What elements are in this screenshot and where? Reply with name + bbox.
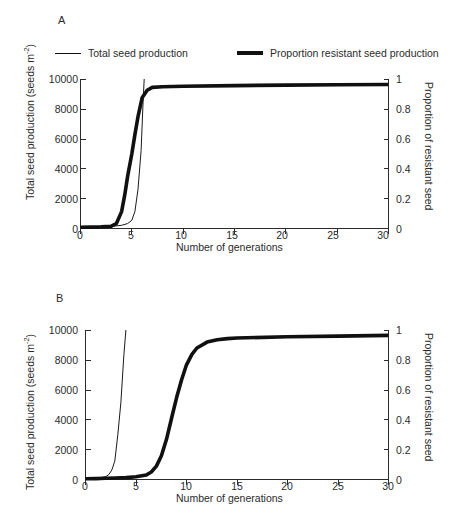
panel-b: B Total seed production (seeds m-2) Prop… (0, 278, 451, 523)
panel-a-series-proportion-resistant (81, 85, 389, 228)
panel-b-bottom-ticks (86, 480, 389, 485)
panel-b-left-ticks (86, 331, 91, 480)
panel-a-bottom-ticks (81, 229, 389, 234)
panel-b-right-ticks (384, 331, 389, 480)
panel-a-left-ticks (81, 80, 86, 229)
panel-a: A Total seed production Proportion resis… (0, 0, 451, 270)
panel-a-series-total-seed (81, 79, 145, 228)
panel-b-series-proportion-resistant (86, 335, 389, 478)
panel-b-series-total-seed (86, 330, 126, 479)
figure-root: A Total seed production Proportion resis… (0, 0, 451, 523)
panel-b-plot (0, 278, 451, 523)
panel-a-plot (0, 0, 451, 270)
panel-a-right-ticks (384, 80, 389, 229)
